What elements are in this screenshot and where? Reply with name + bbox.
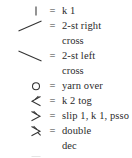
equals-sign: =: [46, 123, 59, 138]
diagonal-up-right-symbol: [0, 18, 46, 33]
knitting-symbol-legend: = k 1 = 2-st right cross = 2-st left cro…: [0, 0, 132, 157]
circle-symbol: [0, 78, 46, 93]
equals-sign: =: [46, 3, 59, 18]
legend-description: p 1: [59, 153, 132, 157]
double-chevron-stem-icon: [29, 124, 43, 138]
diagonal-down-right-icon: [17, 49, 43, 63]
spacer: [0, 138, 59, 153]
equals-sign: =: [46, 108, 59, 123]
legend-row: = yarn over: [0, 78, 132, 93]
legend-row: = k 2 tog: [0, 93, 132, 108]
left-chevron-stem-icon: [29, 94, 43, 108]
legend-description: slip 1, k 1, psso: [59, 108, 132, 123]
legend-row: = double: [0, 123, 132, 138]
right-chevron-stem-symbol: [0, 108, 46, 123]
legend-description: yarn over: [59, 78, 132, 93]
legend-description-cont: dec: [59, 138, 132, 153]
circle-icon: [29, 79, 43, 93]
legend-row: = p 1: [0, 153, 132, 157]
legend-row: = slip 1, k 1, psso: [0, 108, 132, 123]
legend-row-continuation: cross: [0, 33, 132, 48]
spacer: [0, 33, 59, 48]
equals-sign: =: [46, 48, 59, 63]
square-symbol: [0, 153, 46, 157]
legend-description: k 1: [59, 3, 132, 18]
legend-description: 2-st left: [59, 48, 132, 63]
legend-row-continuation: dec: [0, 138, 132, 153]
spacer: [0, 63, 59, 78]
equals-sign: =: [46, 78, 59, 93]
vertical-bar-symbol: [0, 3, 46, 18]
diagonal-down-right-symbol: [0, 48, 46, 63]
legend-description: k 2 tog: [59, 93, 132, 108]
diagonal-up-right-icon: [17, 19, 43, 33]
double-chevron-stem-symbol: [0, 123, 46, 138]
legend-description-cont: cross: [59, 63, 132, 78]
left-chevron-stem-symbol: [0, 93, 46, 108]
legend-row: = 2-st right: [0, 18, 132, 33]
legend-description: double: [59, 123, 132, 138]
legend-description-cont: cross: [59, 33, 132, 48]
legend-row-continuation: cross: [0, 63, 132, 78]
vertical-bar-icon: [29, 4, 43, 18]
legend-row: = k 1: [0, 3, 132, 18]
equals-sign: =: [46, 18, 59, 33]
legend-row: = 2-st left: [0, 48, 132, 63]
square-icon: [29, 154, 43, 158]
legend-description: 2-st right: [59, 18, 132, 33]
equals-sign: =: [46, 153, 59, 157]
right-chevron-stem-icon: [29, 109, 43, 123]
equals-sign: =: [46, 93, 59, 108]
